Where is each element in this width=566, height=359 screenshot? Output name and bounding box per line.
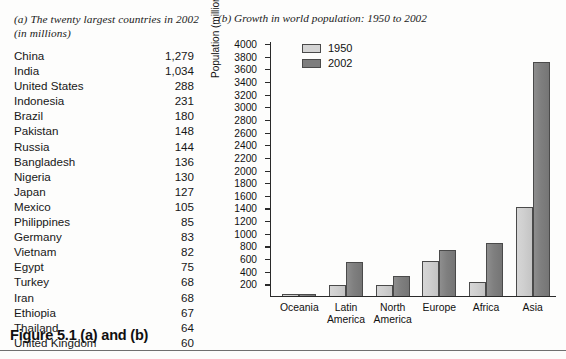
- x-axis-category-label: North America: [374, 302, 412, 327]
- y-axis-tick: [265, 196, 270, 197]
- table-row: Germany83: [14, 229, 196, 244]
- country-population-value: 180: [146, 108, 196, 123]
- y-axis-tick-label: 1600: [234, 190, 257, 201]
- legend-item-2002: 2002: [302, 57, 352, 69]
- bar-group: North America: [369, 276, 416, 296]
- table-row: Mexico105: [14, 199, 196, 214]
- table-row: Russia144: [14, 139, 196, 154]
- plot-area: 2004006008001000120014001600180020002200…: [270, 42, 556, 299]
- country-population-value: 105: [146, 199, 196, 214]
- table-row: Philippines85: [14, 214, 196, 229]
- country-name: Egypt: [14, 259, 146, 274]
- y-axis-tick-label: 600: [240, 254, 257, 265]
- y-axis-tick: [265, 171, 270, 172]
- country-name: Ethiopia: [14, 305, 146, 320]
- y-axis-tick-label: 2800: [234, 114, 257, 125]
- figure-caption: Figure 5.1 (a) and (b): [10, 327, 148, 343]
- y-axis-tick-label: 3400: [234, 76, 257, 87]
- y-axis-tick: [265, 69, 270, 70]
- y-axis-tick: [265, 133, 270, 134]
- bar-2002: [299, 294, 316, 296]
- bar-2002: [346, 262, 363, 296]
- legend-swatch-1950-icon: [302, 44, 321, 53]
- country-population-value: 1,279: [146, 48, 196, 63]
- country-population-value: 68: [146, 290, 196, 305]
- country-population-value: 83: [146, 229, 196, 244]
- y-axis-tick-label: 1200: [234, 216, 257, 227]
- country-name: Indonesia: [14, 93, 146, 108]
- country-name: Russia: [14, 139, 146, 154]
- y-axis-tick: [265, 57, 270, 58]
- y-axis-tick: [265, 145, 270, 146]
- country-name: Iran: [14, 290, 146, 305]
- bar-group: Europe: [416, 250, 463, 296]
- table-row: Nigeria130: [14, 169, 196, 184]
- y-axis-tick-label: 3800: [234, 51, 257, 62]
- country-population-value: 144: [146, 139, 196, 154]
- country-name: Mexico: [14, 199, 146, 214]
- table-row: Bangladesh136: [14, 154, 196, 169]
- y-axis-tick: [265, 208, 270, 209]
- y-axis-tick-label: 2400: [234, 140, 257, 151]
- y-axis-line: [270, 42, 271, 297]
- bar-2002: [533, 62, 550, 296]
- chart-title: (b) Growth in world population: 1950 to …: [218, 12, 427, 24]
- table-row: Brazil180: [14, 108, 196, 123]
- y-axis-tick-label: 3200: [234, 89, 257, 100]
- country-population-value: 85: [146, 214, 196, 229]
- x-axis-category-label: Africa: [473, 302, 500, 314]
- chart-legend: 1950 2002: [302, 42, 352, 69]
- country-population-value: 64: [146, 320, 196, 335]
- country-name: Bangladesh: [14, 154, 146, 169]
- country-name: Germany: [14, 229, 146, 244]
- y-axis-tick-label: 1400: [234, 203, 257, 214]
- panel-b-chart-block: (b) Growth in world population: 1950 to …: [214, 12, 558, 342]
- y-axis-tick-label: 2600: [234, 127, 257, 138]
- country-name: United States: [14, 78, 146, 93]
- legend-label-1950: 1950: [328, 42, 352, 54]
- panel-a-caption: (a) The twenty largest countries in 2002…: [14, 12, 210, 40]
- figure-container: (a) The twenty largest countries in 2002…: [0, 0, 566, 359]
- y-axis-tick-label: 2000: [234, 165, 257, 176]
- y-axis-tick: [265, 234, 270, 235]
- legend-label-2002: 2002: [328, 57, 352, 69]
- table-row: China1,279: [14, 48, 196, 63]
- y-axis-tick: [265, 120, 270, 121]
- country-name: China: [14, 48, 146, 63]
- y-axis-tick: [265, 107, 270, 108]
- y-axis-tick-label: 3600: [234, 64, 257, 75]
- x-axis-category-label: Europe: [423, 302, 457, 314]
- y-axis-tick: [265, 183, 270, 184]
- bar-1950: [422, 261, 439, 296]
- country-population-value: 68: [146, 274, 196, 289]
- legend-swatch-2002-icon: [302, 59, 321, 68]
- y-axis-tick: [265, 272, 270, 273]
- y-axis-tick: [265, 221, 270, 222]
- bar-group: Oceania: [276, 294, 323, 296]
- country-population-value: 136: [146, 154, 196, 169]
- y-axis-tick-label: 4000: [234, 39, 257, 50]
- y-axis-tick: [265, 259, 270, 260]
- country-table-body: China1,279India1,034United States288Indo…: [14, 48, 196, 350]
- y-axis-tick: [265, 284, 270, 285]
- country-population-value: 60: [146, 335, 196, 350]
- legend-item-1950: 1950: [302, 42, 352, 54]
- y-axis-tick: [265, 158, 270, 159]
- caption-divider: [0, 350, 566, 351]
- table-row: Iran68: [14, 290, 196, 305]
- table-row: Japan127: [14, 184, 196, 199]
- y-axis-tick: [265, 44, 270, 45]
- table-row: Vietnam82: [14, 244, 196, 259]
- x-axis-category-label: Oceania: [280, 302, 319, 314]
- country-population-value: 148: [146, 123, 196, 138]
- y-axis-tick: [265, 95, 270, 96]
- country-name: Japan: [14, 184, 146, 199]
- table-row: Ethiopia67: [14, 305, 196, 320]
- country-population-value: 82: [146, 244, 196, 259]
- y-axis-tick-label: 3000: [234, 102, 257, 113]
- country-name: Vietnam: [14, 244, 146, 259]
- y-axis-tick-label: 1000: [234, 228, 257, 239]
- country-population-table: China1,279India1,034United States288Indo…: [14, 48, 196, 350]
- x-axis-category-label: Latin America: [327, 302, 365, 327]
- table-row: India1,034: [14, 63, 196, 78]
